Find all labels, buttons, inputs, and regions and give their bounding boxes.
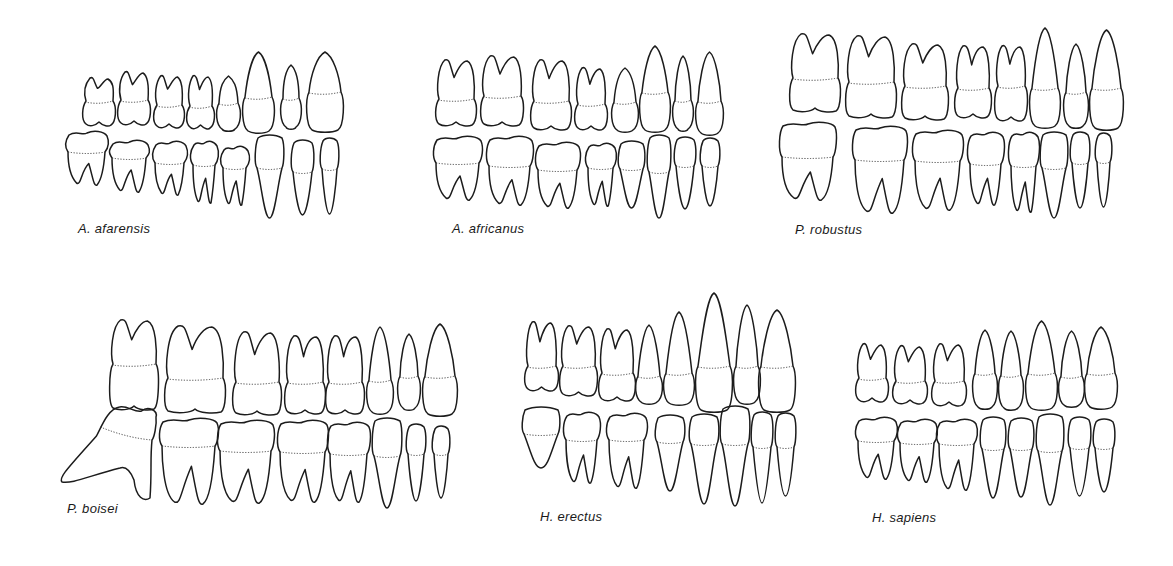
p-boisei-lower-cej-2 xyxy=(162,446,216,448)
species-label-p-robustus: P. robustus xyxy=(795,222,862,237)
h-erectus-lower-cej-4 xyxy=(657,442,683,444)
p-robustus-lower-tooth-4 xyxy=(967,132,1004,205)
p-boisei-upper-tooth-8 xyxy=(423,324,458,416)
p-robustus-upper-tooth-2 xyxy=(846,36,897,118)
a-afarensis-upper-cej-2 xyxy=(120,100,148,102)
a-africanus-upper-tooth-1 xyxy=(436,60,477,126)
h-sapiens-upper-cej-3 xyxy=(934,381,964,383)
p-boisei-upper-tooth-7 xyxy=(398,334,421,410)
p-boisei-lower-cej-7 xyxy=(408,454,424,456)
h-sapiens-lower-tooth-2 xyxy=(897,419,937,482)
p-robustus-lower-cej-4 xyxy=(970,164,1002,166)
p-boisei-upper-tooth-3 xyxy=(233,332,282,415)
a-africanus-lower-cej-2 xyxy=(489,166,531,168)
p-robustus-upper-cej-2 xyxy=(848,82,894,84)
h-sapiens-lower-tooth-4 xyxy=(980,417,1006,498)
species-label-h-sapiens: H. sapiens xyxy=(872,510,936,525)
a-africanus-lower-cej-7 xyxy=(676,166,694,168)
p-robustus-upper-cej-1 xyxy=(792,78,838,80)
h-sapiens-upper-tooth-1 xyxy=(856,344,889,402)
h-sapiens-lower-cej-2 xyxy=(900,443,935,445)
p-robustus-upper-cej-6 xyxy=(1032,88,1058,90)
p-robustus-lower-tooth-7 xyxy=(1070,132,1090,208)
a-africanus-upper-cej-8 xyxy=(698,101,721,103)
a-africanus-lower-cej-6 xyxy=(649,172,669,174)
p-boisei-upper-tooth-5 xyxy=(326,336,365,414)
h-sapiens-lower-tooth-7 xyxy=(1068,417,1091,496)
p-boisei-lower-tooth-5 xyxy=(327,422,370,502)
a-africanus-upper-cej-4 xyxy=(577,104,605,106)
a-afarensis-upper-cej-7 xyxy=(283,98,299,100)
h-sapiens-lower-tooth-3 xyxy=(936,419,977,490)
a-afarensis-lower-tooth-6 xyxy=(255,135,284,218)
h-erectus-lower-tooth-8 xyxy=(775,413,796,496)
a-africanus-lower-cej-1 xyxy=(436,163,480,165)
p-boisei-lower-tooth-4 xyxy=(277,420,328,502)
h-erectus-lower-cej-1 xyxy=(524,434,558,436)
h-erectus-lower-tooth-1 xyxy=(522,407,560,468)
p-boisei-upper-tooth-4 xyxy=(285,336,326,414)
a-africanus-lower-tooth-3 xyxy=(535,142,580,208)
p-robustus-upper-tooth-5 xyxy=(995,46,1028,121)
h-erectus-lower-tooth-6 xyxy=(720,406,750,506)
p-boisei-upper-cej-7 xyxy=(400,376,418,378)
h-erectus-lower-cej-8 xyxy=(777,447,794,449)
h-erectus-upper-cej-1 xyxy=(527,366,556,368)
h-erectus-upper-tooth-5 xyxy=(664,312,695,405)
h-sapiens-lower-cej-8 xyxy=(1095,448,1113,450)
a-afarensis-lower-tooth-2 xyxy=(109,140,149,192)
h-sapiens-upper-tooth-3 xyxy=(932,344,967,406)
p-boisei-lower-tooth-8 xyxy=(432,426,450,498)
h-erectus-upper-tooth-6 xyxy=(696,293,733,412)
p-robustus-upper-tooth-4 xyxy=(955,46,992,118)
a-afarensis-upper-cej-3 xyxy=(156,105,182,107)
a-afarensis-lower-cej-8 xyxy=(322,169,337,171)
p-robustus-upper-tooth-3 xyxy=(902,44,949,120)
p-robustus-lower-cej-7 xyxy=(1072,163,1088,165)
h-erectus-upper-tooth-1 xyxy=(525,322,559,391)
p-boisei-lower-tooth-7 xyxy=(406,424,426,501)
p-boisei-upper-cej-6 xyxy=(369,380,391,382)
h-sapiens-upper-tooth-5 xyxy=(999,331,1024,410)
a-afarensis-lower-tooth-8 xyxy=(320,138,339,214)
p-boisei-lower-tooth-1 xyxy=(61,407,156,500)
p-robustus-upper-tooth-6 xyxy=(1030,28,1061,128)
h-sapiens-upper-cej-5 xyxy=(1001,375,1021,377)
a-africanus-lower-cej-3 xyxy=(538,170,578,172)
a-afarensis-upper-tooth-3 xyxy=(154,76,185,128)
h-erectus-lower-tooth-4 xyxy=(655,415,685,491)
a-afarensis-upper-cej-6 xyxy=(245,97,272,99)
a-afarensis-lower-cej-1 xyxy=(68,152,106,154)
a-afarensis-lower-cej-4 xyxy=(193,165,216,167)
a-africanus-lower-tooth-4 xyxy=(585,143,616,206)
h-erectus-upper-cej-5 xyxy=(666,373,692,375)
p-robustus-lower-cej-5 xyxy=(1011,166,1037,168)
p-robustus-upper-cej-4 xyxy=(957,88,989,90)
h-erectus-lower-tooth-5 xyxy=(689,414,719,504)
h-erectus-upper-tooth-7 xyxy=(734,305,761,404)
h-sapiens-upper-tooth-4 xyxy=(973,330,998,409)
h-sapiens-lower-tooth-1 xyxy=(855,417,897,479)
a-afarensis-upper-tooth-5 xyxy=(217,76,241,131)
p-robustus-lower-cej-3 xyxy=(915,161,961,163)
h-sapiens-upper-cej-1 xyxy=(858,378,886,380)
h-erectus-upper-cej-6 xyxy=(698,366,730,368)
p-robustus-lower-cej-2 xyxy=(855,160,905,162)
h-erectus-upper-cej-2 xyxy=(562,366,595,368)
a-africanus-lower-tooth-7 xyxy=(674,137,696,209)
p-boisei-upper-cej-1 xyxy=(112,364,156,366)
a-afarensis-lower-cej-2 xyxy=(112,158,147,160)
a-africanus-lower-tooth-8 xyxy=(700,138,720,206)
p-robustus-lower-cej-1 xyxy=(782,157,834,159)
h-sapiens-upper-cej-2 xyxy=(895,381,925,383)
a-afarensis-lower-cej-3 xyxy=(155,163,185,165)
p-boisei-lower-tooth-2 xyxy=(159,418,218,504)
a-afarensis-lower-tooth-4 xyxy=(190,141,218,203)
h-sapiens-upper-tooth-8 xyxy=(1085,327,1118,409)
h-erectus-lower-tooth-2 xyxy=(563,412,600,483)
h-erectus-upper-tooth-2 xyxy=(560,326,598,396)
h-sapiens-lower-cej-1 xyxy=(858,441,895,443)
p-robustus-lower-tooth-3 xyxy=(912,130,963,210)
a-afarensis-upper-tooth-2 xyxy=(118,72,151,125)
a-afarensis-lower-tooth-7 xyxy=(291,140,314,215)
